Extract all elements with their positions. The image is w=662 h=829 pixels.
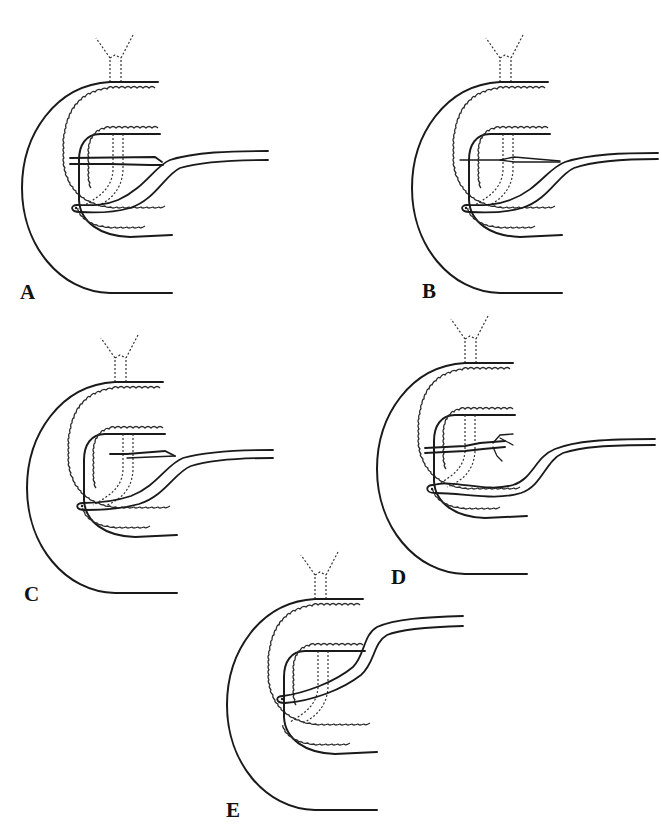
panel-e <box>227 552 463 810</box>
panel-label-c: C <box>24 584 39 605</box>
panel-label-e: E <box>226 800 240 821</box>
panel-label-b: B <box>422 281 436 302</box>
panel-label-d: D <box>391 567 406 588</box>
panel-d <box>377 316 655 574</box>
panel-label-a: A <box>20 282 35 303</box>
panel-a <box>22 35 268 293</box>
figure-svg <box>0 0 662 829</box>
panel-b <box>412 35 658 293</box>
pancreatic-duct-variants-figure: A B C D E <box>0 0 662 829</box>
panel-c <box>27 335 273 593</box>
